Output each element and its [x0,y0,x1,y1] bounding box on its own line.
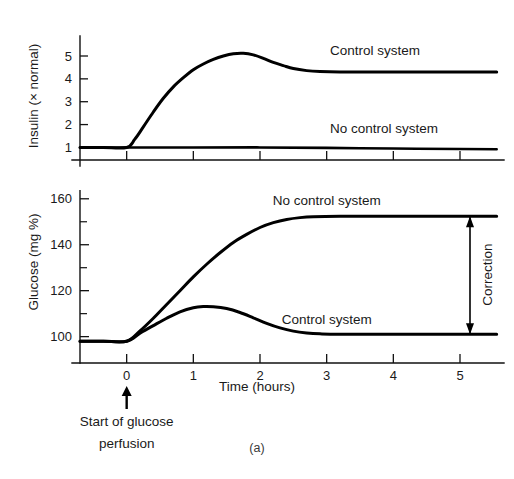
insulin-y-tick-label: 5 [65,49,72,64]
correction-arrow-head-down [466,323,474,334]
insulin-axis-title: Insulin (× normal) [26,44,41,149]
glucose-y-tick-label: 140 [50,237,72,252]
glucose-label-control-system: Control system [282,312,372,327]
glucose-y-tick-labels: 100120140160 [50,191,72,344]
start-arrow-head [122,386,132,396]
glucose-x-tick-label: 4 [390,368,397,383]
glucose-label-no-control-system: No control system [273,193,381,208]
correction-arrow-head-up [466,216,474,227]
correction-label: Correction [480,243,495,305]
insulin-series-labels: Control systemNo control system [330,43,438,136]
glucose-insulin-control-figure: Insulin (× normal) 12345 Control systemN… [0,0,514,479]
glucose-y-tick-label: 160 [50,191,72,206]
glucose-y-tick-label: 100 [50,329,72,344]
glucose-panel: Glucose (mg %) 100120140160 No control s… [26,191,504,451]
glucose-y-tick-label: 120 [50,283,72,298]
insulin-panel: Insulin (× normal) 12345 Control systemN… [26,36,504,166]
insulin-y-tick-labels: 12345 [65,49,72,155]
insulin-y-tick-label: 1 [65,140,72,155]
glucose-x-tick-label: 5 [456,368,463,383]
glucose-axis-title: Glucose (mg %) [26,214,41,311]
insulin-series-no-control-system [80,147,497,149]
correction-annotation: Correction [466,216,495,334]
start-label-line-2: perfusion [99,436,155,451]
insulin-y-tick-label: 3 [65,94,72,109]
start-label-line-1: Start of glucose [80,414,174,429]
glucose-x-tick-label: 3 [323,368,330,383]
time-axis-title: Time (hours) [219,379,295,394]
figure-caption: (a) [249,441,264,455]
figure-container: Insulin (× normal) 12345 Control systemN… [0,0,514,479]
glucose-x-tick-label: 1 [190,368,197,383]
glucose-x-tick-label: 0 [123,368,130,383]
insulin-label-control-system: Control system [330,43,420,58]
insulin-y-tick-label: 2 [65,117,72,132]
insulin-label-no-control-system: No control system [330,121,438,136]
insulin-y-tick-label: 4 [65,71,72,86]
start-of-perfusion-annotation: Start of glucoseperfusion [80,386,174,451]
glucose-series-labels: No control systemControl system [273,193,381,327]
